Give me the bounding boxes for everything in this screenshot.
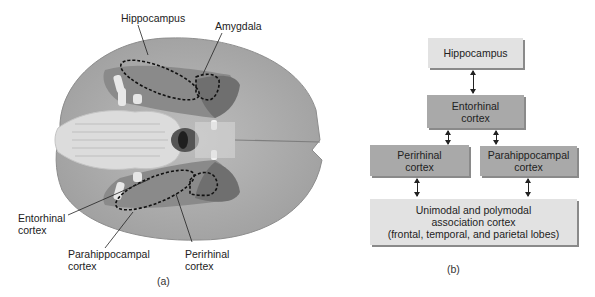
label-perirhinal-line1: Perirhinal [185,248,229,260]
node-entorhinal-line1: Entorhinal [452,100,499,112]
label-entorhinal-line1: Entorhinal [18,212,65,224]
node-perirhinal-line1: Perirhinal [397,149,441,161]
node-parahippocampal-line1: Parahippocampal [488,149,570,161]
node-association-cortex: Unimodal and polymodal association corte… [370,199,577,245]
label-parahippocampal-line1: Parahippocampal [68,248,150,260]
node-hippocampus-label: Hippocampus [443,47,507,59]
arrow-parahippocampal-association [528,179,529,196]
arrow-entorhinal-parahippocampal [496,131,497,144]
arrow-perirhinal-association [417,179,418,196]
node-entorhinal-line2: cortex [461,112,490,124]
label-hippocampus: Hippocampus [121,12,185,24]
caption-a: (a) [157,275,170,287]
node-parahippocampal-cortex: Parahippocampal cortex [480,146,577,176]
node-association-line3: (frontal, temporal, and parietal lobes) [388,228,560,240]
label-perirhinal-line2: cortex [185,260,214,272]
caption-b: (b) [447,263,460,275]
node-parahippocampal-line2: cortex [514,161,543,173]
brain-ventral-view-illustration [0,0,340,297]
node-perirhinal-cortex: Perirhinal cortex [370,145,469,176]
node-perirhinal-line2: cortex [405,161,434,173]
label-entorhinal-line2: cortex [18,224,47,236]
arrow-hippocampus-entorhinal [473,71,474,93]
panel-a-brain-illustration: Hippocampus Amygdala Entorhinal cortex P… [0,0,340,297]
arrow-entorhinal-perirhinal [448,131,449,144]
node-hippocampus: Hippocampus [428,38,523,68]
node-association-line2: association cortex [431,216,515,228]
node-association-line1: Unimodal and polymodal [416,204,532,216]
label-amygdala: Amygdala [215,20,262,32]
label-parahippocampal-line2: cortex [68,260,97,272]
panel-b-flowchart: Hippocampus Entorhinal cortex Perirhinal… [340,0,595,297]
node-entorhinal-cortex: Entorhinal cortex [427,95,524,128]
